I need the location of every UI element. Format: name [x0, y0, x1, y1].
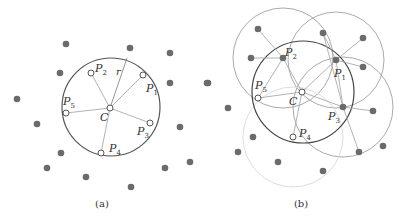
filled-point [250, 134, 257, 141]
panel-a: P1P2P3P4P5Cr(a) [14, 41, 212, 209]
diagram-canvas: P1P2P3P4P5Cr(a) P1P2P3P4P5C(b) [0, 0, 405, 219]
filled-point [225, 105, 232, 112]
filled-point [235, 149, 242, 156]
edge-line [343, 107, 373, 111]
spoke-line [91, 73, 110, 108]
point-label: P2 [94, 62, 107, 77]
filled-point [14, 96, 21, 103]
filled-point [360, 64, 367, 71]
filled-point [58, 150, 65, 157]
spoke-line [110, 75, 143, 108]
filled-point [275, 159, 282, 166]
filled-point [380, 143, 387, 150]
caption-a: (a) [95, 198, 109, 209]
open-point [147, 120, 153, 126]
point-label: P1 [333, 67, 346, 82]
filled-point [356, 149, 363, 156]
filled-point [127, 45, 134, 52]
filled-point [360, 35, 367, 42]
caption-b: (b) [294, 198, 308, 209]
edge-line [258, 29, 283, 58]
point-label: P4 [108, 142, 121, 157]
point-label: P5 [62, 95, 75, 110]
open-point [63, 110, 69, 116]
filled-point [167, 50, 174, 57]
center-label: C [289, 95, 298, 108]
filled-point [320, 168, 327, 175]
point-label: P3 [136, 125, 149, 140]
point-label: P2 [284, 46, 297, 61]
open-point [290, 134, 296, 140]
open-point [98, 150, 104, 156]
filled-point [177, 124, 184, 131]
filled-point [204, 80, 211, 87]
filled-point [248, 55, 255, 62]
center-point [299, 89, 305, 95]
filled-point [34, 121, 41, 128]
edge-line [343, 107, 359, 152]
open-point [140, 72, 146, 78]
filled-point [167, 80, 174, 87]
member-point [333, 57, 340, 64]
point-label: P5 [254, 79, 267, 94]
point-label: P1 [145, 82, 158, 97]
edge-line [336, 38, 363, 60]
filled-point [255, 26, 262, 33]
filled-point [187, 159, 194, 166]
point-label: P4 [298, 127, 311, 142]
filled-point [162, 165, 169, 172]
open-point [255, 95, 261, 101]
member-point [340, 104, 347, 111]
spoke-line [110, 108, 150, 123]
filled-point [44, 165, 51, 172]
center-label: C [100, 111, 109, 124]
filled-point [128, 184, 135, 191]
filled-point [83, 174, 90, 181]
open-point [88, 70, 94, 76]
filled-point [370, 108, 377, 115]
filled-point [57, 70, 64, 77]
edge-line [336, 60, 363, 67]
panel-b: P1P2P3P4P5C(b) [204, 8, 393, 209]
edge-line [302, 60, 336, 92]
filled-point [63, 41, 70, 48]
point-label: P3 [327, 110, 340, 125]
filled-point [320, 30, 327, 37]
